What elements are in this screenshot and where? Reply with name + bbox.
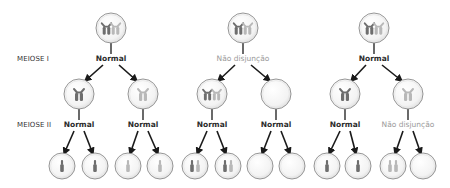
meiosis-1-label: MEIOSE I bbox=[17, 55, 49, 63]
parent-cell bbox=[359, 13, 389, 43]
gamete-cell bbox=[247, 153, 273, 179]
meiosis-2-cell bbox=[128, 79, 158, 109]
gamete-cell bbox=[380, 153, 406, 179]
gamete-cell bbox=[147, 153, 173, 179]
arrow-icon bbox=[350, 131, 356, 154]
gamete-cell bbox=[314, 153, 340, 179]
arrow-icon bbox=[218, 65, 235, 81]
parent-cell bbox=[96, 13, 126, 43]
arrow-icon bbox=[130, 131, 138, 154]
cells bbox=[49, 13, 436, 179]
meiosis-2-label: MEIOSE II bbox=[17, 121, 51, 129]
gamete-cell bbox=[115, 153, 141, 179]
diagram-canvas bbox=[0, 0, 450, 188]
arrow-icon bbox=[262, 131, 271, 154]
gamete-cell bbox=[279, 153, 305, 179]
arrow-icon bbox=[351, 65, 366, 81]
arrow-icon bbox=[119, 65, 137, 81]
arrow-icon bbox=[329, 131, 340, 154]
gamete-cell bbox=[215, 153, 241, 179]
meiosis-1-event-label: Normal bbox=[358, 54, 391, 63]
meiosis-2-event-label: Normal bbox=[260, 120, 293, 129]
arrow-icon bbox=[281, 131, 290, 154]
meiosis-2-event-label: Normal bbox=[63, 120, 96, 129]
arrow-icon bbox=[64, 131, 74, 154]
meiosis-1-event-label: Normal bbox=[95, 54, 128, 63]
arrow-icon bbox=[251, 65, 270, 81]
meiosis-2-event-label: Normal bbox=[329, 120, 362, 129]
meiosis-2-cell bbox=[197, 79, 227, 109]
meiosis-2-event-label: Normal bbox=[196, 120, 229, 129]
arrow-icon bbox=[413, 131, 421, 154]
arrow-icon bbox=[395, 131, 403, 154]
gamete-cell bbox=[49, 153, 75, 179]
meiosis-2-event-label: Não disjunção bbox=[381, 120, 436, 129]
parent-cell bbox=[228, 13, 258, 43]
meiosis-2-cell bbox=[64, 79, 94, 109]
gamete-cell bbox=[182, 153, 208, 179]
arrow-icon bbox=[85, 65, 103, 81]
meiosis-1-event-label: Não disjunção bbox=[216, 54, 271, 63]
meiosis-2-cell bbox=[330, 79, 360, 109]
meiosis-2-cell bbox=[261, 79, 291, 109]
arrow-icon bbox=[148, 131, 158, 154]
gamete-cell bbox=[82, 153, 108, 179]
arrow-icon bbox=[217, 131, 226, 154]
arrow-icon bbox=[382, 65, 402, 81]
arrow-icon bbox=[197, 131, 207, 154]
meiosis-nondisjunction-diagram: MEIOSE I MEIOSE II NormalNormalNormalNão… bbox=[0, 0, 450, 188]
gamete-cell bbox=[410, 153, 436, 179]
meiosis-2-cell bbox=[393, 79, 423, 109]
meiosis-2-event-label: Normal bbox=[127, 120, 160, 129]
arrow-icon bbox=[84, 131, 93, 154]
gamete-cell bbox=[345, 153, 371, 179]
